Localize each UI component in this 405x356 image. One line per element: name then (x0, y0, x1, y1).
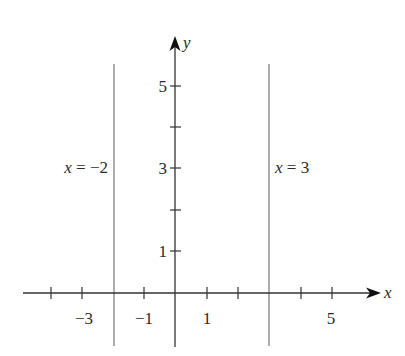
y-tick-label-1: 1 (159, 242, 168, 261)
line-label-x-3: x = 3 (274, 158, 309, 177)
line-label-x-neg2: x = −2 (63, 158, 108, 177)
x-tick-label-1: 1 (203, 309, 212, 328)
y-tick-label-5: 5 (159, 77, 168, 96)
line-label-rest: = 3 (283, 158, 310, 177)
x-tick-label-5: 5 (327, 309, 336, 328)
plot-canvas: −3 −1 1 5 1 3 5 x y x = −2 x = 3 (0, 0, 405, 356)
x-tick-label-neg1: −1 (135, 309, 153, 328)
x-tick-label-neg3: −3 (75, 309, 93, 328)
coordinate-plane-diagram: −3 −1 1 5 1 3 5 x y x = −2 x = 3 (0, 0, 405, 356)
y-axis-label: y (181, 33, 191, 52)
line-label-rest: = −2 (72, 158, 108, 177)
x-axis-label: x (383, 283, 392, 302)
y-tick-label-3: 3 (159, 159, 168, 178)
